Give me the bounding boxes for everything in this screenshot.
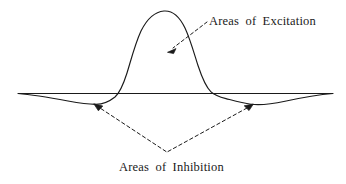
inhibition-left-arrow-head [94,104,103,111]
excitation-annotation-arrow [168,22,208,54]
inhibition-right-arrow-head [244,104,253,111]
figure-container: Areas of Excitation Areas of Inhibition [0,0,346,184]
excitation-arrow-head [168,49,177,54]
inhibition-left-annotation-arrow [94,104,166,152]
inhibition-right-annotation-arrow [168,104,253,152]
excitation-arrow-shaft [173,22,207,48]
inhibition-right-arrow-shaft [168,108,247,152]
inhibition-left-arrow-shaft [100,108,166,152]
inhibition-label: Areas of Inhibition [119,161,224,174]
excitation-label: Areas of Excitation [209,15,316,28]
